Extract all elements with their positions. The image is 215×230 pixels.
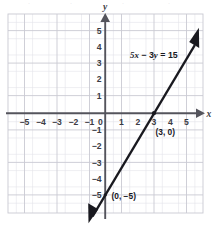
x-axis-label: x xyxy=(206,109,212,119)
x-tick--4: −4 xyxy=(36,117,46,127)
y-tick-2: 2 xyxy=(97,74,102,84)
y-intercept-marker xyxy=(104,193,107,196)
x-intercept-marker xyxy=(152,111,156,115)
equation-var-x: x xyxy=(133,50,139,60)
equation-equals: = xyxy=(160,50,165,60)
equation-label: 5x−3y=15 xyxy=(130,50,178,60)
y-axis-label: y xyxy=(102,2,108,12)
x-tick--5: −5 xyxy=(20,117,30,127)
y-tick-4: 4 xyxy=(97,42,102,52)
coordinate-plane-svg: · · · · xyxy=(0,0,215,230)
svg-text:·: · xyxy=(168,0,170,6)
equation-operator: − xyxy=(141,50,146,60)
x-tick-4: 4 xyxy=(168,117,173,127)
svg-text:·: · xyxy=(70,0,72,6)
y-tick--3: −3 xyxy=(92,158,102,168)
x-tick--3: −3 xyxy=(52,117,62,127)
x-intercept-label: (3, 0) xyxy=(156,127,176,137)
y-tick--4: −4 xyxy=(92,174,102,184)
y-tick-5: 5 xyxy=(97,26,102,36)
x-tick--2: −2 xyxy=(68,117,78,127)
equation-var-y: y xyxy=(153,50,158,60)
svg-text:·: · xyxy=(122,0,124,6)
y-tick-1: 1 xyxy=(97,91,102,101)
y-tick-3: 3 xyxy=(97,58,102,68)
svg-text:·: · xyxy=(28,0,30,6)
graph-figure: · · · · xyxy=(0,0,215,230)
y-tick--1: −1 xyxy=(92,125,102,135)
y-intercept-label: (0, −5) xyxy=(112,191,137,201)
x-tick-2: 2 xyxy=(135,117,140,127)
x-tick-1: 1 xyxy=(119,117,124,127)
equation-constant: 15 xyxy=(168,50,178,60)
x-tick-5: 5 xyxy=(184,117,189,127)
y-tick--2: −2 xyxy=(92,141,102,151)
y-tick--5: −5 xyxy=(92,190,102,200)
figure-background xyxy=(0,0,215,230)
